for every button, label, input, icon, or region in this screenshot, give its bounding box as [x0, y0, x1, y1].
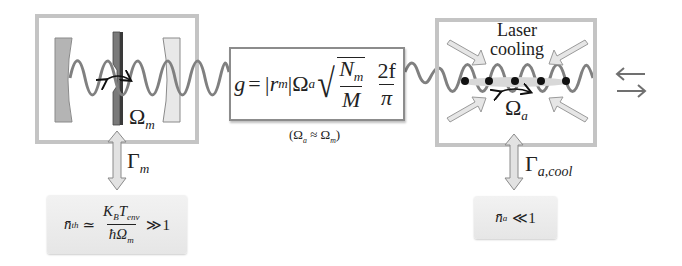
frequency-condition: (Ωa ≈ Ωm): [289, 127, 340, 145]
mechanical-frequency-label: Ωm: [129, 104, 155, 133]
thermal-occupation-box: n̄th ≃ KBTenv ħΩm ≫1: [47, 195, 187, 254]
atomic-damping-label: Γa,cool: [525, 151, 572, 180]
omega-a-sub: a: [309, 76, 316, 92]
fraction-2f-pi: 2f π: [375, 60, 397, 109]
mechanical-damping-label: Γm: [127, 148, 149, 177]
coupling-formula-box: g = |rm| Ωa √ Nm M 2f π: [229, 47, 405, 121]
membrane-edge: [120, 32, 123, 125]
reflectivity-sub: m: [278, 76, 288, 92]
equals-sign: =: [248, 71, 260, 97]
omega-a: Ω: [292, 71, 308, 97]
laser-cooling-label: Laser cooling: [487, 21, 547, 59]
sqrt-term: √ Nm M: [315, 57, 367, 111]
io-arrows: [617, 68, 645, 97]
atomic-occupation-box: n̄a ≪1: [474, 196, 557, 239]
atomic-damping-arrow: [505, 134, 523, 190]
mechanical-damping-arrow: [108, 131, 126, 190]
coupling-g: g: [234, 71, 245, 97]
reflectivity: |r: [264, 71, 279, 97]
atomic-frequency-label: Ωa: [505, 95, 528, 124]
